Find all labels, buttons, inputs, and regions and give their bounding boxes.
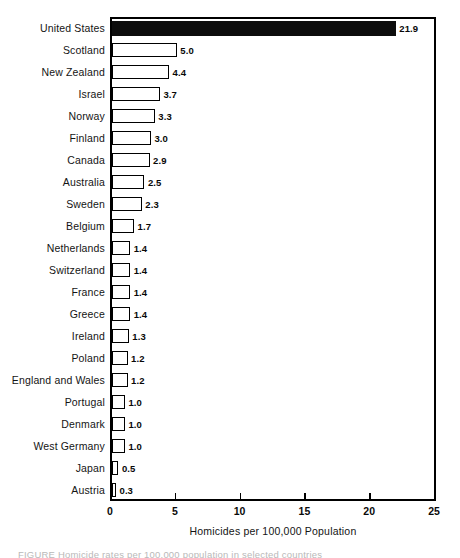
x-tick-mark xyxy=(240,493,242,501)
x-tick-mark xyxy=(304,493,306,501)
x-tick-mark xyxy=(369,493,371,501)
x-tick-label: 20 xyxy=(349,505,389,517)
homicide-bar-chart: United States21.9Scotland5.0New Zealand4… xyxy=(0,0,460,558)
x-tick-label: 0 xyxy=(90,505,130,517)
x-tick-label: 25 xyxy=(414,505,454,517)
x-axis-title: Homicides per 100,000 Population xyxy=(110,525,436,537)
figure-caption-sliver: FIGURE Homicide rates per 100,000 popula… xyxy=(18,549,442,558)
x-tick-label: 10 xyxy=(220,505,260,517)
x-tick-mark xyxy=(175,493,177,501)
x-axis: 0510152025 xyxy=(0,0,460,558)
x-tick-label: 15 xyxy=(284,505,324,517)
x-tick-label: 5 xyxy=(155,505,195,517)
